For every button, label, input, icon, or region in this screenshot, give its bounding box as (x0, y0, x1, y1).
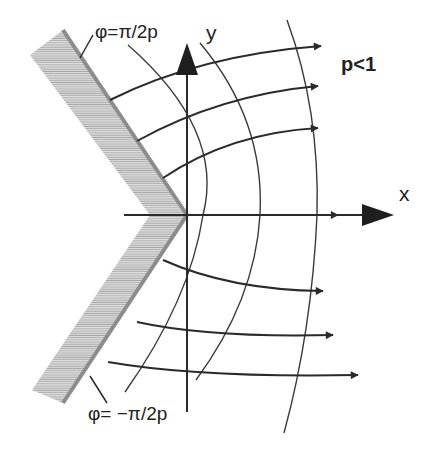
equipotential-arc-3 (284, 20, 317, 433)
lower-wall-label: φ= −π/2p (88, 404, 167, 423)
lower-wall-edge (63, 215, 187, 403)
y-axis-label: y (206, 22, 217, 43)
equipotential-arc-2 (196, 43, 260, 380)
condition-label: p<1 (341, 54, 376, 74)
x-axis-label: x (399, 183, 410, 204)
field-line-upper-1 (110, 46, 321, 100)
lower-wall-leader (90, 376, 107, 403)
y-axis-arrowhead-icon (176, 43, 198, 75)
conductor-wedge (30, 30, 187, 403)
hatched-region (30, 30, 187, 403)
x-axis-arrowhead-icon (362, 204, 394, 226)
wedge-field-diagram: φ=π/2p y p<1 x φ= −π/2p (0, 0, 430, 455)
field-lines (108, 46, 358, 375)
upper-wall-label: φ=π/2p (95, 22, 158, 41)
field-line-lower-3 (108, 362, 358, 375)
upper-wall-leader (80, 35, 93, 58)
field-line-upper-2 (137, 86, 318, 141)
